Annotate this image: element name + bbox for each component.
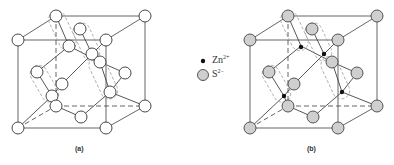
s-atoms-panel-a xyxy=(12,10,151,134)
legend-zn-ion: Zn xyxy=(212,54,223,65)
legend-s-charge: 2− xyxy=(218,68,224,74)
legend-zn: Zn2+ xyxy=(212,54,230,65)
legend-zn-charge: 2+ xyxy=(223,54,229,60)
zinc-blende-diagram xyxy=(0,0,394,165)
panel-b-label: (b) xyxy=(307,145,316,152)
panel-a xyxy=(12,8,151,134)
zn-legend-dot-icon xyxy=(201,59,205,63)
s-legend-circle-icon xyxy=(198,70,209,81)
panel-a-label: (a) xyxy=(75,145,84,152)
legend-s: S2− xyxy=(212,68,224,79)
s-atoms-panel-b xyxy=(244,10,383,134)
panel-b xyxy=(244,8,383,134)
